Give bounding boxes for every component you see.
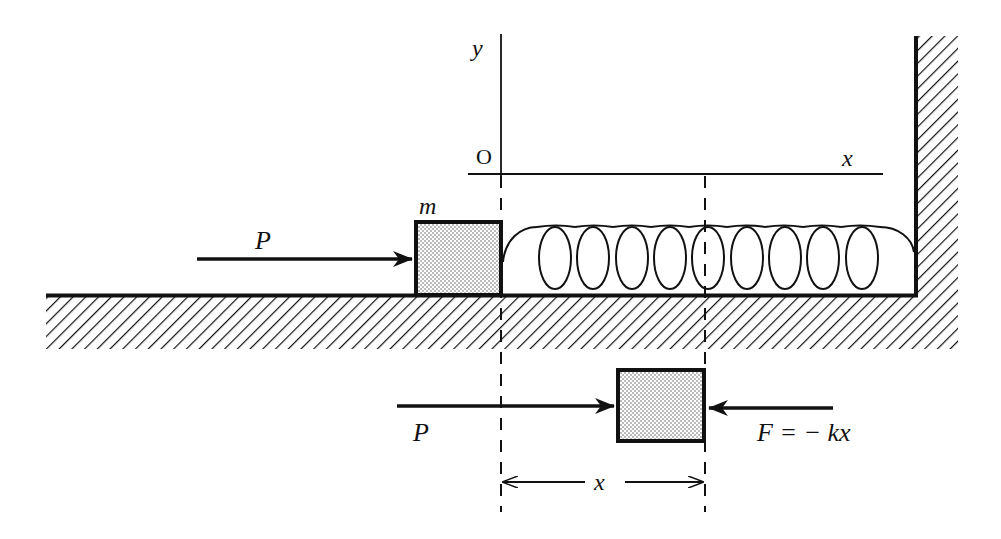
wall-hatch (918, 36, 958, 349)
spring-force-label: F = − kx (756, 418, 851, 447)
force-p-label-top: P (254, 226, 271, 255)
y-axis-label: y (470, 35, 483, 61)
spring-loop (616, 227, 648, 289)
spring-loop (654, 227, 686, 289)
displacement-dimension: x (503, 469, 703, 495)
mass-block-rest: m (416, 193, 501, 295)
spring-start-arc (503, 227, 537, 262)
force-p-label-bottom: P (412, 418, 429, 447)
spring-loop (539, 227, 571, 289)
spring-loop (807, 227, 839, 289)
mass-block (416, 222, 501, 295)
mass-spring-diagram: y O x m P (0, 0, 1001, 539)
mass-label: m (419, 193, 436, 219)
spring-loop (769, 227, 801, 289)
coordinate-axes: y O x (468, 34, 883, 176)
x-axis-label: x (841, 145, 853, 171)
spring (503, 226, 914, 290)
applied-force-top: P (197, 226, 412, 259)
spring-loop (731, 227, 763, 289)
spring-loop (577, 227, 609, 289)
spring-loop (692, 227, 724, 289)
origin-label: O (476, 144, 492, 169)
ground (46, 36, 958, 349)
free-body-block (618, 370, 704, 441)
free-body-diagram: P F = − kx (397, 370, 851, 447)
spring-loop (846, 227, 878, 289)
spring-end-arc (880, 227, 914, 252)
ground-hatch (46, 297, 918, 349)
displacement-label: x (593, 469, 605, 495)
